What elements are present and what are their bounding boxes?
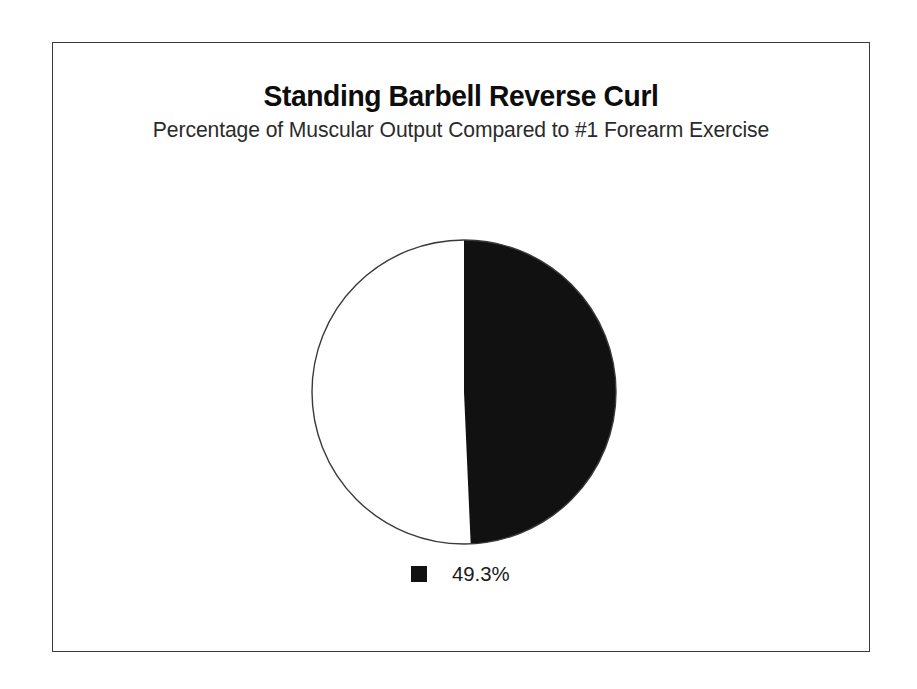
chart-legend: 49.3% bbox=[53, 563, 869, 584]
chart-frame: Standing Barbell Reverse Curl Percentage… bbox=[52, 42, 870, 652]
legend-item-label: 49.3% bbox=[452, 563, 510, 584]
legend-swatch-icon bbox=[411, 566, 427, 582]
pie-chart-svg bbox=[311, 239, 617, 545]
chart-title: Standing Barbell Reverse Curl bbox=[77, 79, 844, 113]
pie-slice-primary bbox=[464, 240, 616, 544]
pie-chart bbox=[311, 239, 617, 545]
chart-subtitle: Percentage of Muscular Output Compared t… bbox=[69, 117, 852, 143]
legend-item: 49.3% bbox=[411, 563, 511, 584]
